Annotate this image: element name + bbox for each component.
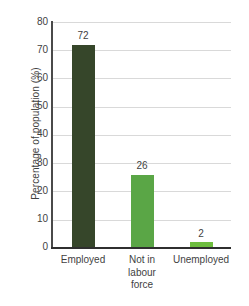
y-axis-line <box>51 21 53 249</box>
x-label-line: force <box>109 279 175 292</box>
bar-value-employed: 72 <box>63 30 103 41</box>
y-tick-label: 80 <box>4 17 48 27</box>
bar-chart: Percentage of population (%) 80 70 60 50… <box>0 0 249 306</box>
x-label-line: Employed <box>50 254 116 267</box>
bar-not-in-labour-force[interactable] <box>131 175 154 248</box>
y-tick-label: 40 <box>4 129 48 139</box>
gridline <box>52 22 231 23</box>
x-label-line: Not in <box>109 254 175 267</box>
bar-value-unemployed: 2 <box>181 228 221 239</box>
y-tick-label: 0 <box>4 242 48 252</box>
plot-area <box>52 22 231 248</box>
y-tick-label: 20 <box>4 186 48 196</box>
y-tick-label: 60 <box>4 73 48 83</box>
bar-value-not-in-labour-force: 26 <box>122 160 162 171</box>
bar-employed[interactable] <box>72 45 95 248</box>
y-tick-label: 50 <box>4 101 48 111</box>
x-label-line: labour <box>109 267 175 280</box>
y-axis-tick-labels: 80 70 60 50 40 30 20 10 0 <box>0 0 48 306</box>
x-label-employed: Employed <box>50 254 116 267</box>
y-tick-label: 10 <box>4 214 48 224</box>
x-label-not-in-labour-force: Not in labour force <box>109 254 175 292</box>
y-tick-label: 30 <box>4 158 48 168</box>
x-axis-line <box>51 247 231 249</box>
x-label-unemployed: Unemployed <box>168 254 234 267</box>
x-label-line: Unemployed <box>168 254 234 267</box>
y-tick-label: 70 <box>4 45 48 55</box>
